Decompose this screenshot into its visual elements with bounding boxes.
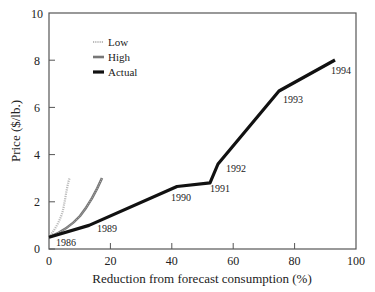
year-label: 1994 <box>331 65 351 76</box>
x-tick-label: 40 <box>166 254 178 268</box>
series-actual-line <box>49 60 335 237</box>
y-tick-label: 8 <box>34 54 40 68</box>
x-tick-label: 60 <box>227 254 239 268</box>
y-tick-label: 6 <box>34 101 40 115</box>
legend: Low High Actual <box>93 36 137 78</box>
year-label: 1993 <box>283 94 303 105</box>
y-axis: 0 2 4 6 8 10 Price ($/lb.) <box>8 7 55 256</box>
y-tick-label: 0 <box>34 242 40 256</box>
year-label: 1991 <box>210 183 230 194</box>
year-label: 1986 <box>56 237 76 248</box>
x-tick-label: 0 <box>46 254 52 268</box>
legend-actual-label: Actual <box>108 66 137 78</box>
y-tick-label: 10 <box>31 7 43 21</box>
line-chart: 0 2 4 6 8 10 Price ($/lb.) 0 20 40 60 80… <box>0 0 375 292</box>
plot-frame <box>49 13 356 249</box>
y-axis-label: Price ($/lb.) <box>8 100 23 162</box>
legend-low-label: Low <box>108 36 128 48</box>
year-label: 1992 <box>226 163 246 174</box>
year-label: 1989 <box>97 223 117 234</box>
x-tick-label: 20 <box>104 254 116 268</box>
legend-high-label: High <box>108 51 131 63</box>
x-tick-label: 100 <box>347 254 365 268</box>
y-tick-label: 4 <box>34 148 40 162</box>
year-label: 1990 <box>171 192 191 203</box>
y-tick-label: 2 <box>34 195 40 209</box>
x-tick-label: 80 <box>289 254 301 268</box>
x-axis-label: Reduction from forecast consumption (%) <box>92 271 312 286</box>
